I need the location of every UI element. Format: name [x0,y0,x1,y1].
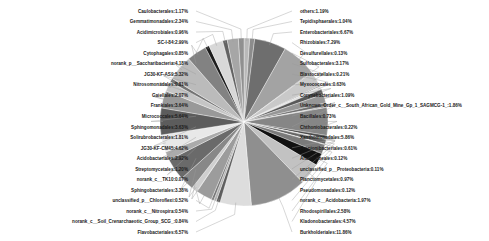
pie-slice-label: unclassified_p__Proteobacteria:0.11% [300,167,384,172]
pie-slice-label: Sphingobacteriales:3.38% [131,188,188,193]
pie-slice-label: Pseudomonadales:0.12% [300,188,355,193]
pie-slice-label: Xanthomonadales:5.86% [300,135,354,140]
pie-slice-label: Acidimicrobiales:0.96% [137,30,188,35]
pie-slice-label: Acidobacteriales:2.92% [137,156,188,161]
pie-slice-label: Gaiellales:2.07% [152,93,188,98]
pie-slice-label: Sulfobacterales:3.17% [300,61,349,66]
pie-slice-label: norank_c__Acidobacteria:1.97% [300,198,370,203]
pie-slice-label: unclassified_p__Chloroflexi:0.52% [112,198,188,203]
pie-slice-label: Sphingomonadales:3.63% [131,125,188,130]
pie-slice-label: norank_c__Soil_Crenarchaeotic_Group_SCG_… [72,219,188,224]
pie-slice-label: Kladonobacterales:4.57% [300,219,356,224]
pie-slice-label: others:1.19% [300,9,329,14]
pie-chart-figure: others:1.19%Tepidisphaerales:1.04%Entero… [0,0,489,241]
pie-slice-label: SC-I-84:2.99% [158,40,188,45]
pie-slice-label: Unknown_Order_c__South_African_Gold_Mine… [300,103,462,108]
pie-slice-label: norank_c__Nitrospira:0.54% [126,209,188,214]
pie-slice-label: norank_c__TK10:0.07% [137,177,188,182]
pie-slice-label: Blastocatellales:0.21% [300,72,349,77]
pie-slice-label: Frankiales:3.64% [151,103,188,108]
pie-slice-label: Burkholderiales:11.86% [300,230,352,235]
pie-slice-label: Desulfurellales:0.13% [300,51,347,56]
pie-slice-label: Tepidisphaerales:1.04% [300,19,352,24]
pie-slice-label: Nitrosomonadales:0.81% [133,82,188,87]
pie-slice-label: Bacillales:0.73% [300,114,336,119]
pie-slice-label: Solirubrobacterales:1.81% [130,135,188,140]
pie-slice-label: Rhodospirillales:2.58% [300,209,350,214]
pie-slice-label: JG30-KF-AS9:5.32% [144,72,188,77]
pie-slice-label: JG30-KF-CM45:4.62% [141,146,188,151]
pie-slice-label: Streptomycetales:1.20% [135,167,188,172]
pie-slice-label: Anaerolineales:0.12% [300,156,347,161]
pie-slice-label: Flavobacteriales:6.57% [137,230,188,235]
pie-slice-label: Rhizobiales:7.29% [300,40,340,45]
pie-slice-label: Corynebacteriales:1.09% [300,93,354,98]
pie-slice-label: Micrococcales:5.64% [142,114,188,119]
pie-slice-label: norank_p__Saccharibacteria:4.18% [111,61,188,66]
pie-chart-svg: others:1.19%Tepidisphaerales:1.04%Entero… [0,0,489,241]
pie-slice-label: Propionibacteriales:0.61% [300,146,357,151]
pie-slice-label: Chthoniobacterales:0.22% [300,125,357,130]
pie-slice-label: Planctomycetales:0.97% [300,177,353,182]
pie-slice-label: Gemmatimonadales:2.34% [130,19,188,24]
pie-slice-label: Enterobacteriales:6.67% [300,30,353,35]
pie-slice-label: Cytophagales:0.85% [143,51,188,56]
pie-slice-label: Myxococcales:0.63% [300,82,346,87]
pie-slice-label: Caulobacterales:1.17% [138,9,188,14]
